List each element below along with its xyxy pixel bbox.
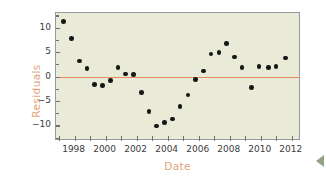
y-tick-label: 5 bbox=[45, 46, 51, 56]
x-axis-label: Date bbox=[55, 160, 300, 172]
x-tick-mark bbox=[152, 136, 153, 141]
data-point bbox=[217, 50, 222, 55]
y-minor-tick-mark bbox=[56, 15, 59, 16]
zero-reference-line bbox=[56, 77, 299, 79]
x-tick-mark bbox=[75, 136, 76, 141]
x-tick-label: 2012 bbox=[279, 144, 302, 154]
data-point bbox=[209, 52, 214, 57]
y-axis-label: Residuals bbox=[30, 64, 42, 117]
x-tick-mark bbox=[214, 136, 215, 141]
data-point bbox=[100, 83, 105, 88]
x-tick-mark bbox=[199, 136, 200, 141]
data-point bbox=[193, 77, 198, 82]
page-corner-marker-icon bbox=[316, 155, 324, 167]
y-minor-tick-mark bbox=[56, 40, 59, 41]
y-tick-mark bbox=[56, 52, 60, 53]
data-point bbox=[186, 93, 191, 98]
x-tick-mark bbox=[106, 136, 107, 141]
data-point bbox=[154, 124, 159, 129]
data-point bbox=[249, 85, 254, 90]
y-tick-mark bbox=[56, 77, 60, 78]
y-tick-label: 0 bbox=[45, 71, 51, 81]
data-point bbox=[266, 65, 271, 70]
data-point bbox=[232, 55, 237, 60]
plot-area bbox=[55, 12, 300, 140]
x-tick-mark bbox=[292, 136, 293, 141]
data-point bbox=[116, 65, 121, 70]
data-point bbox=[178, 104, 183, 109]
y-tick-mark bbox=[56, 101, 60, 102]
x-tick-label: 2004 bbox=[155, 144, 178, 154]
x-tick-mark bbox=[168, 136, 169, 141]
y-tick-label: 10 bbox=[40, 22, 51, 32]
x-tick-mark bbox=[276, 136, 277, 141]
x-tick-mark bbox=[230, 136, 231, 141]
y-minor-tick-mark bbox=[56, 138, 59, 139]
data-point bbox=[92, 82, 97, 87]
x-tick-mark bbox=[183, 136, 184, 141]
y-tick-label: −10 bbox=[32, 119, 51, 129]
data-point bbox=[131, 72, 136, 77]
x-tick-label: 2008 bbox=[217, 144, 240, 154]
x-tick-label: 1998 bbox=[62, 144, 85, 154]
data-point bbox=[139, 90, 144, 95]
data-point bbox=[257, 64, 262, 69]
x-tick-label: 2006 bbox=[186, 144, 209, 154]
data-point bbox=[283, 56, 288, 61]
y-minor-tick-mark bbox=[56, 113, 59, 114]
y-tick-mark bbox=[56, 28, 60, 29]
data-point bbox=[61, 19, 66, 24]
data-point bbox=[170, 117, 175, 122]
data-point bbox=[274, 64, 279, 69]
data-point bbox=[69, 36, 74, 41]
data-point bbox=[224, 41, 229, 46]
y-minor-tick-mark bbox=[56, 64, 59, 65]
y-tick-label: −5 bbox=[38, 95, 51, 105]
x-tick-mark bbox=[245, 136, 246, 141]
x-tick-label: 2002 bbox=[124, 144, 147, 154]
data-point bbox=[240, 65, 245, 70]
data-point bbox=[147, 109, 152, 114]
y-tick-mark bbox=[56, 125, 60, 126]
x-tick-mark bbox=[90, 136, 91, 141]
x-tick-label: 2010 bbox=[248, 144, 271, 154]
y-minor-tick-mark bbox=[56, 89, 59, 90]
x-tick-mark bbox=[261, 136, 262, 141]
x-tick-mark bbox=[59, 136, 60, 141]
x-tick-mark bbox=[121, 136, 122, 141]
data-point bbox=[201, 69, 206, 74]
data-point bbox=[162, 120, 167, 125]
x-tick-mark bbox=[137, 136, 138, 141]
residuals-scatter-figure: Residuals 1050−5−10 19982000200220042006… bbox=[0, 0, 326, 181]
x-tick-label: 2000 bbox=[93, 144, 116, 154]
data-point bbox=[108, 78, 113, 83]
data-point bbox=[77, 59, 82, 64]
data-point bbox=[85, 66, 90, 71]
